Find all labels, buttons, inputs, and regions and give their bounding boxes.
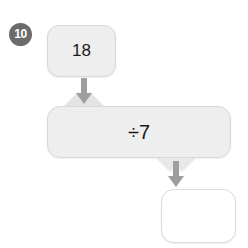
arrow-down-icon	[60, 76, 108, 108]
function-machine-exercise: 10 18 ÷7	[0, 0, 248, 248]
problem-number-badge: 10	[9, 23, 32, 46]
input-value-box: 18	[47, 25, 116, 77]
answer-input-box[interactable]	[161, 189, 236, 243]
input-value-text: 18	[72, 41, 91, 61]
arrow-down-icon	[152, 156, 200, 190]
operation-box: ÷7	[47, 106, 231, 158]
operation-text: ÷7	[128, 121, 150, 144]
